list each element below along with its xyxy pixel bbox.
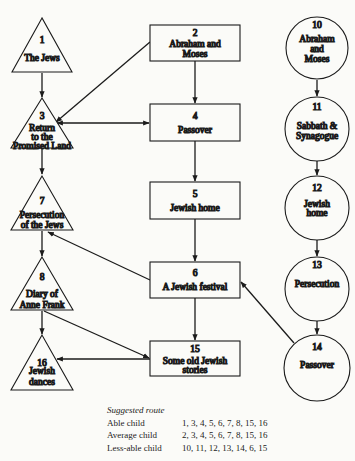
node-15[interactable]: 15 Some old Jewish stories: [150, 341, 240, 376]
svg-text:Passover: Passover: [300, 360, 335, 370]
svg-text:Abraham and: Abraham and: [169, 39, 221, 49]
svg-text:A Jewish festival: A Jewish festival: [163, 282, 228, 292]
svg-text:4: 4: [193, 111, 198, 121]
svg-text:Diary of: Diary of: [26, 289, 59, 299]
svg-text:3: 3: [40, 111, 45, 121]
rectangle-shape: [150, 182, 240, 219]
svg-text:7: 7: [40, 196, 45, 206]
svg-text:10: 10: [312, 20, 322, 30]
flow-diagram: 1 The Jews 3 Return to the Promised Land…: [0, 0, 355, 461]
legend-row-less-able: Less-able child 10, 11, 12, 13, 14, 6, 1…: [107, 442, 268, 455]
svg-text:12: 12: [312, 183, 322, 193]
svg-text:home: home: [306, 208, 327, 218]
legend-row-able: Able child 1, 3, 4, 5, 6, 7, 8, 15, 16: [107, 417, 268, 430]
legend-row-label: Able child: [107, 417, 182, 430]
legend-row-sequence: 10, 11, 12, 13, 14, 6, 15: [182, 442, 267, 455]
svg-text:6: 6: [193, 268, 198, 278]
svg-text:Promised Land: Promised Land: [13, 141, 71, 151]
svg-text:15: 15: [190, 344, 200, 354]
node-2[interactable]: 2 Abraham and Moses: [150, 25, 240, 61]
svg-text:Moses: Moses: [305, 54, 330, 64]
svg-text:Persecution: Persecution: [20, 210, 65, 220]
legend-row-average: Average child 2, 3, 4, 5, 6, 7, 8, 15, 1…: [107, 429, 268, 442]
legend-row-label: Less-able child: [107, 442, 182, 455]
svg-text:14: 14: [312, 342, 322, 352]
svg-text:Sabbath &: Sabbath &: [297, 121, 338, 131]
node-6[interactable]: 6 A Jewish festival: [150, 262, 240, 298]
svg-text:Anne Frank: Anne Frank: [19, 300, 64, 310]
legend-row-sequence: 2, 3, 4, 5, 6, 7, 8, 15, 16: [182, 429, 268, 442]
node-10[interactable]: 10 Abraham and Moses: [286, 17, 348, 79]
node-11[interactable]: 11 Sabbath & Synagogue: [285, 97, 349, 161]
svg-text:stories: stories: [183, 365, 208, 375]
svg-text:2: 2: [193, 28, 198, 38]
legend-title: Suggested route: [107, 404, 268, 417]
edge-2-to-3: [56, 42, 150, 122]
svg-text:of the Jews: of the Jews: [21, 220, 64, 230]
svg-text:11: 11: [312, 102, 321, 112]
svg-text:8: 8: [40, 272, 45, 282]
node-12[interactable]: 12 Jewish home: [285, 176, 349, 240]
legend-row-sequence: 1, 3, 4, 5, 6, 7, 8, 15, 16: [182, 417, 268, 430]
svg-text:The Jews: The Jews: [24, 53, 60, 63]
svg-text:5: 5: [193, 189, 198, 199]
rectangle-shape: [150, 104, 240, 141]
triangle-shape: [12, 18, 72, 72]
node-13[interactable]: 13 Persecution: [285, 257, 349, 321]
node-7[interactable]: 7 Persecution of the Jews: [11, 176, 73, 230]
node-1[interactable]: 1 The Jews: [12, 18, 72, 72]
svg-text:Jewish home: Jewish home: [170, 203, 219, 213]
node-16[interactable]: 16 Jewish dances: [11, 335, 73, 390]
node-4[interactable]: 4 Passover: [150, 104, 240, 141]
node-5[interactable]: 5 Jewish home: [150, 182, 240, 219]
svg-text:1: 1: [40, 35, 45, 45]
svg-text:and: and: [310, 44, 324, 54]
edge-8-to-15: [44, 311, 149, 358]
svg-text:Persecution: Persecution: [295, 279, 340, 289]
svg-text:13: 13: [312, 260, 322, 270]
svg-text:Abraham: Abraham: [299, 34, 335, 44]
node-14[interactable]: 14 Passover: [284, 335, 350, 401]
edge-6-to-7: [48, 232, 150, 280]
svg-text:Jewish: Jewish: [29, 366, 55, 376]
suggested-route-legend: Suggested route Able child 1, 3, 4, 5, 6…: [107, 404, 268, 454]
node-3[interactable]: 3 Return to the Promised Land: [11, 98, 73, 151]
svg-text:Synagogue: Synagogue: [296, 131, 338, 141]
node-8[interactable]: 8 Diary of Anne Frank: [11, 257, 73, 310]
svg-text:Moses: Moses: [183, 49, 208, 59]
svg-text:Passover: Passover: [178, 125, 213, 135]
svg-text:dances: dances: [29, 377, 55, 387]
legend-row-label: Average child: [107, 429, 182, 442]
